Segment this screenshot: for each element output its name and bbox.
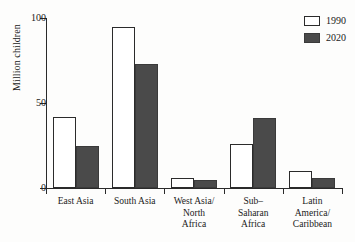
x-tick-mark bbox=[46, 188, 47, 194]
bar-group bbox=[46, 18, 105, 188]
x-category-label: Latin America/ Caribbean bbox=[283, 196, 342, 231]
x-tick-mark bbox=[105, 188, 106, 194]
bar-group bbox=[105, 18, 164, 188]
bar-1990 bbox=[171, 178, 194, 188]
bar-group bbox=[224, 18, 283, 188]
bar-1990 bbox=[230, 144, 253, 188]
legend-item-1990: 1990 bbox=[304, 16, 346, 26]
bar-2020 bbox=[312, 178, 335, 188]
x-tick-mark bbox=[283, 188, 284, 194]
x-tick-mark bbox=[224, 188, 225, 194]
chart-figure: Million children 050100 East AsiaSouth A… bbox=[0, 0, 355, 242]
legend-label-2020: 2020 bbox=[326, 33, 346, 43]
chart-legend: 1990 2020 bbox=[304, 16, 346, 50]
bar-group bbox=[164, 18, 223, 188]
x-category-label: Sub– Saharan Africa bbox=[224, 196, 283, 231]
y-tick-label: 50 bbox=[14, 98, 46, 108]
x-tick-mark bbox=[164, 188, 165, 194]
x-tick-mark bbox=[342, 188, 343, 194]
bar-2020 bbox=[194, 180, 217, 189]
bar-2020 bbox=[135, 64, 158, 188]
plot-area bbox=[46, 18, 342, 188]
y-tick-label: 100 bbox=[14, 13, 46, 23]
bar-1990 bbox=[112, 27, 135, 189]
x-axis-line bbox=[46, 188, 342, 189]
x-category-label: South Asia bbox=[105, 196, 164, 208]
bar-1990 bbox=[53, 117, 76, 188]
x-category-label: West Asia/ North Africa bbox=[164, 196, 223, 231]
bar-2020 bbox=[253, 118, 276, 188]
bar-2020 bbox=[76, 146, 99, 189]
bar-1990 bbox=[289, 171, 312, 188]
legend-label-1990: 1990 bbox=[326, 16, 346, 26]
legend-item-2020: 2020 bbox=[304, 33, 346, 43]
legend-swatch-1990 bbox=[304, 16, 320, 26]
legend-swatch-2020 bbox=[304, 33, 320, 43]
y-tick-label: 0 bbox=[14, 183, 46, 193]
x-category-label: East Asia bbox=[46, 196, 105, 208]
